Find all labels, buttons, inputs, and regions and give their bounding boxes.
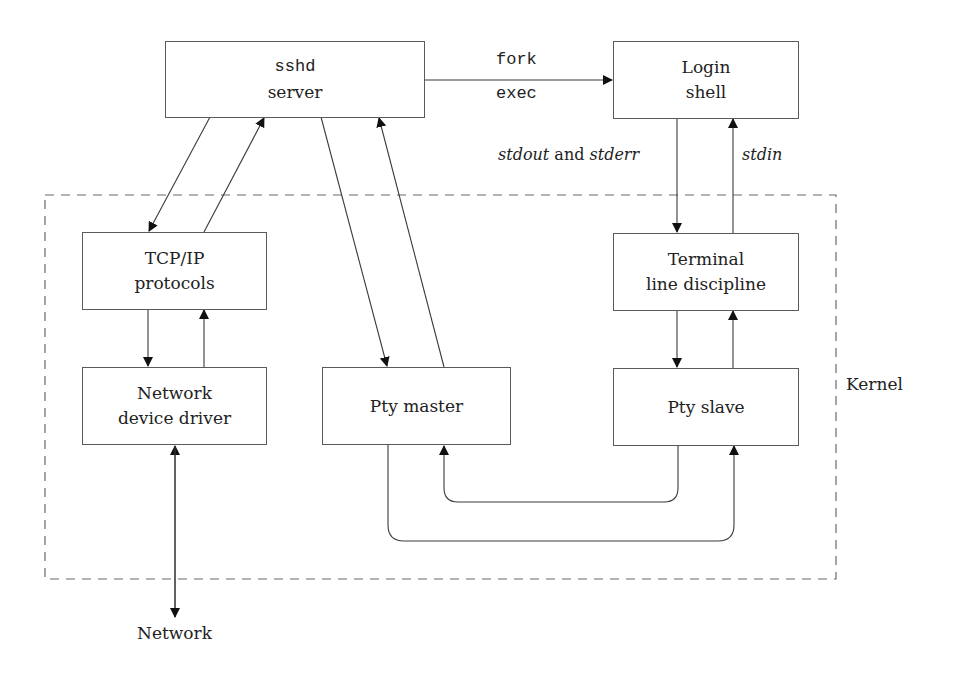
pty-master-label: Pty master [370, 394, 463, 419]
device-driver-label: device driver [118, 406, 231, 431]
sshd-pty-diagram: sshd server Login shell TCP/IP protocols… [0, 0, 953, 677]
pty-master-box: Pty master [322, 367, 511, 445]
sshd-to-ptymaster-arrow [321, 117, 387, 366]
stderr-text: stderr [590, 145, 640, 164]
fork-label: fork [496, 50, 537, 69]
sshd-label: sshd [275, 55, 316, 80]
tcpip-protocols-box: TCP/IP protocols [82, 232, 267, 310]
ptymaster-to-ptyslave-path [388, 445, 734, 541]
and-text: and [549, 145, 589, 164]
stdout-text: stdout [498, 145, 549, 164]
terminal-label: Terminal [668, 247, 744, 272]
shell-label: shell [686, 80, 727, 105]
diagram-connectors [0, 0, 953, 677]
tcpip-to-sshd-arrow [204, 118, 264, 232]
protocols-label: protocols [134, 271, 214, 296]
server-label: server [268, 80, 323, 105]
pty-slave-label: Pty slave [667, 395, 744, 420]
ptyslave-to-ptymaster-path [444, 445, 678, 502]
line-discipline-label: line discipline [646, 272, 766, 297]
ptymaster-to-sshd-arrow [379, 118, 444, 367]
terminal-line-discipline-box: Terminal line discipline [613, 233, 799, 311]
stdout-stderr-label: stdout and stderr [498, 145, 639, 164]
login-label: Login [682, 55, 731, 80]
network-label: Network [137, 381, 212, 406]
exec-label: exec [496, 84, 537, 103]
login-shell-box: Login shell [613, 41, 799, 119]
kernel-label: Kernel [846, 374, 903, 394]
tcpip-label: TCP/IP [145, 246, 205, 271]
pty-slave-box: Pty slave [613, 368, 799, 446]
sshd-to-tcpip-arrow [149, 117, 210, 231]
network-external-label: Network [137, 623, 212, 643]
stdin-label: stdin [742, 145, 782, 164]
sshd-server-box: sshd server [165, 41, 425, 118]
network-device-driver-box: Network device driver [82, 367, 267, 445]
